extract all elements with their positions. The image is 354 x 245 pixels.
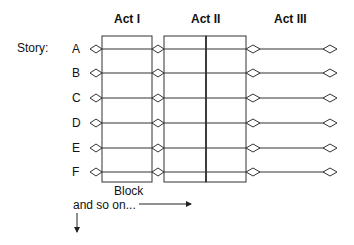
act-2-block-right bbox=[206, 36, 246, 182]
diamond-column-3 bbox=[246, 45, 260, 176]
diamond-column-4 bbox=[323, 45, 337, 176]
diamond-column-2 bbox=[152, 45, 164, 176]
row-lines bbox=[100, 49, 326, 172]
block-label: Block bbox=[114, 184, 143, 198]
diamond-column-1 bbox=[90, 45, 102, 176]
diamond-icons bbox=[90, 45, 337, 176]
continuation-label: and so on... bbox=[73, 198, 136, 212]
story-grid-diagram bbox=[0, 0, 354, 245]
act-2-block-left bbox=[164, 36, 206, 182]
act-1-block bbox=[102, 36, 152, 182]
